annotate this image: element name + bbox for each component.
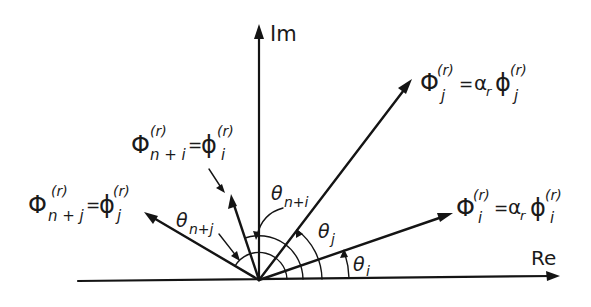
vector-phi-n-plus-i [228,194,259,280]
vector-phi-i-arrowhead-icon [437,213,453,222]
label-phi-i: Φ (r) i = α r ϕ (r) i [456,187,562,227]
pointer-theta-n-plus-j-arrowhead-icon [231,251,240,261]
svg-text:j: j [115,207,122,225]
angle-label-theta-n-plus-i: θ n+i [271,182,309,210]
svg-text:n + j: n + j [48,207,85,225]
svg-text:(r): (r) [217,123,234,139]
svg-text:(r): (r) [510,62,527,78]
svg-text:n+i: n+i [284,194,309,210]
svg-text:r: r [520,208,527,223]
label-phi-n-plus-i: Φ (r) n + i = ϕ (r) i [131,123,234,164]
imag-axis-label: Im [270,22,297,46]
svg-text:(r): (r) [437,62,454,78]
svg-text:i: i [478,209,483,227]
real-axis [78,271,560,281]
angle-label-theta-i: θ i [353,253,370,279]
svg-text:(r): (r) [113,183,130,199]
svg-text:(r): (r) [51,183,68,199]
svg-text:j: j [329,231,335,247]
svg-text:ϕ: ϕ [201,131,217,159]
svg-text:ϕ: ϕ [495,69,511,97]
pointer-theta-n-plus-i [257,208,283,236]
pointer-phi-n-plus-i-arrowhead-icon [216,184,225,193]
svg-text:Φ: Φ [28,191,47,219]
svg-text:(r): (r) [150,123,167,139]
svg-text:θ: θ [353,253,365,275]
svg-text:n + i: n + i [150,146,187,164]
svg-text:j: j [512,87,519,105]
label-phi-n-plus-j: Φ (r) n + j = ϕ (r) j [28,183,130,225]
svg-text:=: = [459,74,473,94]
svg-text:i: i [550,209,555,227]
imaginary-axis [254,24,264,280]
svg-text:i: i [366,263,370,279]
label-phi-j: Φ (r) j = α r ϕ (r) j [420,62,527,105]
real-axis-arrowhead-icon [546,271,560,281]
svg-text:i: i [221,146,226,164]
real-axis-label: Re [531,246,556,270]
angle-label-theta-j: θ j [318,220,335,247]
vector-phi-j-arrowhead-icon [398,79,412,94]
vector-phi-j [259,79,412,280]
imag-axis-arrowhead-icon [254,24,264,39]
svg-text:(r): (r) [473,187,490,203]
svg-text:j: j [439,87,446,105]
svg-text:(r): (r) [545,187,562,203]
phasor-diagram: Im Re Φ (r) j = α r ϕ (r) j Φ (r) i = α … [0,0,591,307]
svg-text:n+j: n+j [189,221,214,237]
svg-text:r: r [486,84,493,99]
angle-label-theta-n-plus-j: θ n+j [176,209,214,237]
svg-text:θ: θ [271,182,283,204]
svg-text:ϕ: ϕ [530,194,546,222]
svg-text:θ: θ [318,220,330,242]
svg-text:=: = [494,198,508,218]
svg-text:Φ: Φ [131,131,150,159]
svg-text:θ: θ [176,209,188,231]
arc-theta-n-plus-j [235,252,287,279]
vector-phi-n-plus-j-arrowhead-icon [144,212,158,224]
arc-theta-j-arrowhead-icon [296,229,303,238]
